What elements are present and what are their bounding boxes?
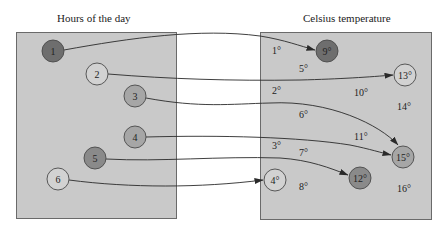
node-label: 12°: [353, 173, 367, 184]
temp-label-5: 5°: [299, 63, 308, 74]
temp-node-4: 4°: [264, 169, 286, 191]
temp-label-8: 8°: [299, 181, 308, 192]
node-label: 6: [56, 174, 61, 185]
node-label: 5: [93, 153, 98, 164]
node-label: 1: [51, 46, 56, 57]
temp-node-15: 15°: [392, 146, 414, 168]
temp-label-2: 2°: [272, 85, 281, 96]
temp-node-12: 12°: [349, 167, 371, 189]
hour-node-2: 2: [86, 63, 108, 85]
hour-node-1: 1: [42, 40, 64, 62]
temp-label-1: 1°: [272, 45, 281, 56]
hour-node-3: 3: [124, 85, 146, 107]
temp-label-7: 7°: [299, 147, 308, 158]
temp-label-6: 6°: [299, 109, 308, 120]
arrow-2-to-13: [108, 74, 393, 80]
node-label: 4: [133, 132, 138, 143]
temp-label-14: 14°: [397, 101, 411, 112]
hour-node-5: 5: [84, 147, 106, 169]
temp-node-9: 9°: [316, 40, 338, 62]
hour-node-6: 6: [47, 168, 69, 190]
node-label: 4°: [271, 175, 280, 186]
node-label: 13°: [398, 70, 412, 81]
temp-label-10: 10°: [354, 87, 368, 98]
hour-node-4: 4: [124, 126, 146, 148]
node-label: 15°: [396, 152, 410, 163]
arrow-6-to-4: [69, 180, 263, 186]
temp-node-13: 13°: [394, 64, 416, 86]
mapping-diagram: 123456 9°13°15°12°4° 1°5°2°10°14°6°11°3°…: [0, 0, 445, 232]
temp-label-11: 11°: [354, 131, 368, 142]
node-label: 9°: [323, 46, 332, 57]
temp-label-3: 3°: [272, 140, 281, 151]
temp-label-16: 16°: [397, 183, 411, 194]
arrow-5-to-12: [106, 158, 348, 175]
node-label: 3: [133, 91, 138, 102]
node-label: 2: [95, 69, 100, 80]
